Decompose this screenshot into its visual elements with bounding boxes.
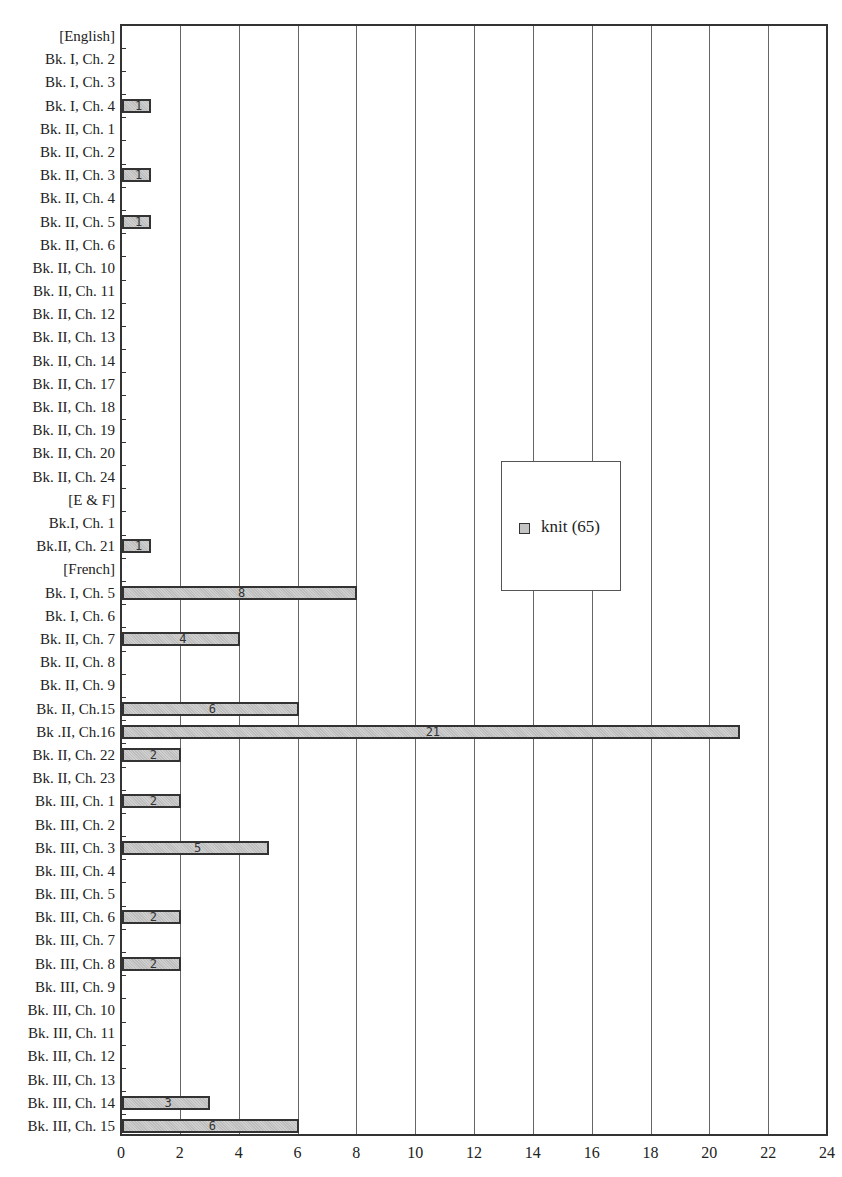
category-label: Bk. II, Ch. 13 (33, 328, 116, 346)
category-label: Bk. II, Ch. 5 (40, 213, 115, 231)
bar: 2 (122, 748, 181, 762)
category-label: Bk. II, Ch. 7 (40, 630, 115, 648)
y-tick (122, 233, 126, 234)
bar-value-label: 1 (135, 168, 142, 182)
x-tick-label: 8 (352, 1144, 360, 1162)
category-label: Bk. II, Ch. 3 (40, 166, 115, 184)
y-tick (122, 465, 126, 466)
gridline (474, 26, 475, 1134)
category-label: Bk .II, Ch.16 (36, 723, 115, 741)
bar-value-label: 1 (135, 99, 142, 113)
x-tick-label: 4 (235, 1144, 243, 1162)
bar-value-label: 5 (194, 841, 201, 855)
y-tick (122, 535, 126, 536)
category-label: Bk. II, Ch. 14 (33, 352, 116, 370)
y-tick (122, 349, 126, 350)
category-label: Bk. II, Ch. 9 (40, 676, 115, 694)
y-tick (122, 581, 126, 582)
gridline (356, 26, 357, 1134)
x-tick-label: 10 (407, 1144, 423, 1162)
category-label: Bk. III, Ch. 2 (35, 816, 115, 834)
category-label: Bk. II, Ch. 24 (33, 468, 116, 486)
category-label: Bk. I, Ch. 2 (45, 50, 115, 68)
category-label: Bk. I, Ch. 4 (45, 97, 115, 115)
y-tick (122, 882, 126, 883)
category-label: Bk. II, Ch. 1 (40, 120, 115, 138)
category-label: Bk. III, Ch. 6 (35, 908, 115, 926)
y-tick (122, 419, 126, 420)
category-label: Bk. II, Ch. 19 (33, 421, 116, 439)
x-tick-label: 22 (760, 1144, 776, 1162)
y-tick (122, 1022, 126, 1023)
bar: 4 (122, 632, 240, 646)
y-tick (122, 1068, 126, 1069)
y-tick (122, 164, 126, 165)
category-label: Bk. II, Ch. 17 (33, 375, 116, 393)
y-tick (122, 210, 126, 211)
bar-value-label: 21 (426, 725, 440, 739)
x-tick-label: 2 (176, 1144, 184, 1162)
y-tick (122, 256, 126, 257)
bar-value-label: 4 (179, 632, 186, 646)
category-label: Bk. II, Ch. 20 (33, 444, 116, 462)
x-tick-label: 20 (701, 1144, 717, 1162)
y-tick (122, 71, 126, 72)
bar-value-label: 2 (150, 794, 157, 808)
y-tick (122, 743, 126, 744)
x-tick-label: 18 (643, 1144, 659, 1162)
legend: knit (65) (501, 461, 621, 591)
bar-value-label: 3 (165, 1096, 172, 1110)
y-tick (122, 836, 126, 837)
category-label: Bk. II, Ch. 2 (40, 143, 115, 161)
category-label: Bk. II, Ch. 4 (40, 189, 115, 207)
bar: 8 (122, 586, 357, 600)
category-label: Bk. II, Ch. 23 (33, 769, 116, 787)
bar: 2 (122, 794, 181, 808)
category-label: Bk. III, Ch. 13 (28, 1071, 116, 1089)
category-label: Bk. III, Ch. 1 (35, 792, 115, 810)
y-tick (122, 929, 126, 930)
category-label: Bk. II, Ch. 12 (33, 305, 116, 323)
category-label: Bk. III, Ch. 11 (28, 1024, 115, 1042)
y-tick (122, 187, 126, 188)
category-label: Bk.I, Ch. 1 (49, 514, 115, 532)
x-tick-label: 16 (584, 1144, 600, 1162)
y-tick (122, 697, 126, 698)
category-label: [English] (59, 27, 115, 45)
plot-area: 1111846212252236 (120, 24, 828, 1136)
y-tick (122, 813, 126, 814)
y-tick (122, 326, 126, 327)
bar-value-label: 8 (238, 586, 245, 600)
y-tick (122, 94, 126, 95)
y-tick (122, 859, 126, 860)
category-label: Bk. I, Ch. 6 (45, 607, 115, 625)
bar-value-label: 2 (150, 748, 157, 762)
bar: 21 (122, 725, 740, 739)
category-label: Bk. III, Ch. 9 (35, 978, 115, 996)
y-tick (122, 627, 126, 628)
y-tick (122, 372, 126, 373)
y-tick (122, 1045, 126, 1046)
y-tick (122, 906, 126, 907)
bar-value-label: 1 (135, 215, 142, 229)
bar: 6 (122, 1119, 299, 1133)
y-tick (122, 975, 126, 976)
bar-value-label: 1 (135, 539, 142, 553)
x-tick-label: 24 (819, 1144, 835, 1162)
legend-swatch-icon (519, 523, 530, 534)
bar-value-label: 2 (150, 910, 157, 924)
gridline (709, 26, 710, 1134)
y-tick (122, 604, 126, 605)
x-tick-label: 12 (466, 1144, 482, 1162)
x-tick-label: 14 (525, 1144, 541, 1162)
category-label: Bk. III, Ch. 15 (28, 1117, 116, 1135)
category-label: Bk. II, Ch. 6 (40, 236, 115, 254)
y-tick (122, 442, 126, 443)
bar: 1 (122, 99, 151, 113)
y-tick (122, 558, 126, 559)
bar: 6 (122, 702, 299, 716)
x-tick-label: 6 (294, 1144, 302, 1162)
category-label: Bk. II, Ch. 10 (33, 259, 116, 277)
bar: 2 (122, 957, 181, 971)
y-tick (122, 488, 126, 489)
